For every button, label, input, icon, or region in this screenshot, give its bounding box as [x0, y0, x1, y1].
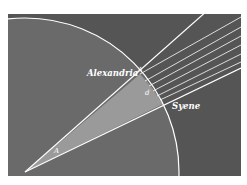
center-angle-label: A [53, 147, 59, 155]
shadow-angle-label: A [137, 65, 143, 72]
arc-distance-label: d [145, 89, 150, 97]
eratosthenes-diagram: Alexandria Syene A d A [0, 0, 247, 185]
syene-label: Syene [172, 101, 201, 111]
alexandria-label: Alexandria [86, 68, 138, 78]
